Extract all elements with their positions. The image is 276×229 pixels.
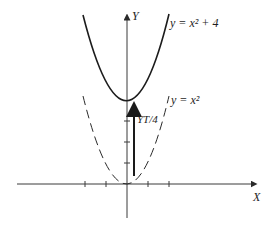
x-axis-label: X bbox=[252, 190, 261, 204]
y-axis-label: Y bbox=[132, 9, 140, 23]
base-parabola-label: y = x² bbox=[170, 93, 200, 107]
translation-label: YT/4 bbox=[137, 113, 158, 125]
shifted-parabola-curve bbox=[83, 14, 169, 101]
parabola-translation-diagram: Y X y = x² + 4 y = x² YT/4 bbox=[0, 0, 276, 229]
base-parabola-curve bbox=[83, 96, 169, 184]
shifted-parabola-label: y = x² + 4 bbox=[169, 16, 218, 30]
